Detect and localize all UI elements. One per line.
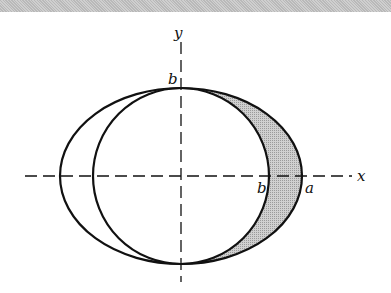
a-axis-label: a (305, 179, 314, 197)
x-axis-label: x (357, 167, 366, 185)
ellipse-circle-diagram: y x b b a (0, 0, 391, 293)
b-top-label: b (168, 70, 178, 88)
b-axis-label: b (257, 179, 267, 197)
y-axis-label: y (173, 24, 183, 42)
